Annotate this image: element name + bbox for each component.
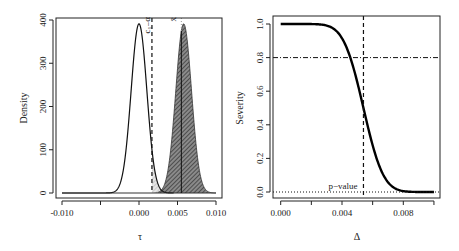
left-y-tick-label: 300 xyxy=(38,56,48,70)
left-shaded-regions xyxy=(152,24,215,193)
right-x-tick-label: 0.000 xyxy=(271,208,292,218)
right-x-tick-label: 0.004 xyxy=(332,208,353,218)
left-y-axis: 0100200300400 xyxy=(38,13,53,196)
right-plot-frame xyxy=(273,16,440,198)
right-y-tick-label: 1.0 xyxy=(255,18,265,30)
right-lines xyxy=(273,16,440,198)
right-y-tick-label: 0.0 xyxy=(255,186,265,198)
right-y-tick-label: 0.6 xyxy=(255,85,265,97)
severity-panel: 0.0000.0040.008 0.00.20.40.60.81.0 Δ Sev… xyxy=(234,16,440,242)
density-panel: -0.0100.0000.0050.010 0100200300400 τ De… xyxy=(18,13,227,242)
right-y-axis-label: Severity xyxy=(234,91,245,124)
right-y-tick-label: 0.8 xyxy=(255,51,265,63)
left-x-tick-label: 0.000 xyxy=(129,208,150,218)
left-y-tick-label: 100 xyxy=(38,143,48,157)
right-x-axis-label: Δ xyxy=(354,231,361,242)
left-x-tick-label: -0.010 xyxy=(50,208,74,218)
right-y-tick-label: 0.2 xyxy=(255,153,265,164)
left-x-axis-label: τ xyxy=(138,231,142,242)
critical-value-label: c₁₋α xyxy=(142,17,152,34)
left-x-tick-label: 0.005 xyxy=(167,208,188,218)
left-y-tick-label: 400 xyxy=(38,13,48,27)
null-density-curve xyxy=(62,24,174,193)
left-y-tick-label: 0 xyxy=(38,190,48,195)
left-y-tick-label: 200 xyxy=(38,99,48,113)
alternative-shading xyxy=(152,24,215,193)
left-y-axis-label: Density xyxy=(18,92,29,123)
right-x-axis: 0.0000.0040.008 xyxy=(271,201,434,218)
p-value-label: p−value xyxy=(328,181,357,191)
right-y-axis: 0.00.20.40.60.81.0 xyxy=(255,18,270,198)
severity-curve xyxy=(281,24,434,192)
right-x-tick-label: 0.008 xyxy=(393,208,414,218)
right-y-tick-label: 0.4 xyxy=(255,119,265,131)
observed-mean-label: x̄ xyxy=(168,17,178,22)
chart-figure: -0.0100.0000.0050.010 0100200300400 τ De… xyxy=(0,0,459,251)
left-x-axis: -0.0100.0000.0050.010 xyxy=(50,201,226,218)
left-x-tick-label: 0.010 xyxy=(206,208,227,218)
